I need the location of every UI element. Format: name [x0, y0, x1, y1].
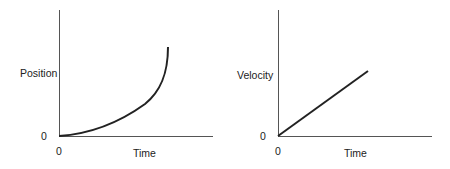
- position-plot-area: [0, 0, 225, 169]
- x-zero-label: 0: [56, 146, 62, 157]
- y-zero-label: 0: [260, 131, 266, 142]
- velocity-time-chart: Velocity 0 0 Time: [225, 0, 450, 169]
- velocity-line: [278, 71, 368, 136]
- x-axis-label: Time: [133, 148, 156, 159]
- position-curve: [59, 47, 168, 136]
- x-axis-label: Time: [344, 148, 367, 159]
- x-zero-label: 0: [275, 146, 281, 157]
- position-time-chart: Position 0 0 Time: [0, 0, 225, 169]
- velocity-plot-area: [225, 0, 450, 169]
- y-axis-label: Position: [20, 68, 57, 79]
- y-axis-label: Velocity: [237, 70, 273, 81]
- y-zero-label: 0: [41, 131, 47, 142]
